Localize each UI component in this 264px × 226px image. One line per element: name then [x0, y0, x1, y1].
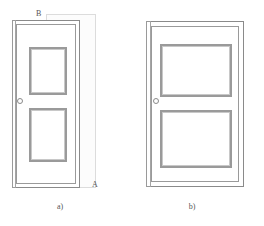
door-b-knob-icon [153, 98, 159, 104]
door-a-knob-icon [17, 98, 23, 104]
dimension-label-a: A [92, 181, 98, 189]
door-a-edge-strip [12, 20, 16, 188]
caption-b: b) [172, 203, 212, 211]
door-b-lower-panel [160, 110, 232, 168]
figure-panel-a: B A a) [0, 0, 132, 226]
dimension-label-b: B [36, 10, 41, 18]
figure-panel-b: b) [132, 0, 264, 226]
door-comparison-figure: B A a) b) [0, 0, 264, 226]
door-a-lower-panel [29, 108, 67, 162]
caption-a: a) [40, 203, 80, 211]
door-a-upper-panel [29, 47, 67, 95]
door-b-upper-panel [160, 44, 232, 97]
door-b-edge-strip [146, 21, 151, 187]
